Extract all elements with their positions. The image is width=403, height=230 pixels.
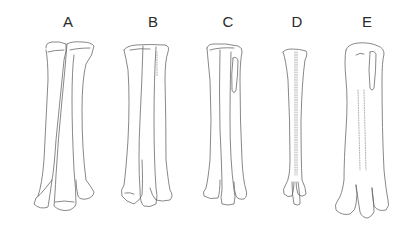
bone-drawing-e: [335, 43, 388, 218]
metapodial-drawings: [0, 0, 403, 230]
bone-drawing-a: [34, 42, 94, 211]
bone-drawing-c: [203, 44, 246, 205]
bone-drawing-d: [283, 49, 307, 205]
bone-drawing-b: [121, 45, 172, 207]
